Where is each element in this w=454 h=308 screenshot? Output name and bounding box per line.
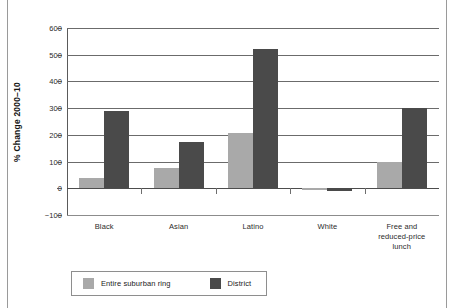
y-tick-mark--100 xyxy=(57,215,62,216)
y-tick-mark-100 xyxy=(57,162,62,163)
category-separator-tick xyxy=(216,188,217,194)
legend-label: District xyxy=(228,279,252,288)
gridline-600 xyxy=(67,28,439,29)
x-tick-label-asian: Asian xyxy=(141,222,215,232)
x-tick-label-white: White xyxy=(290,222,364,232)
bar xyxy=(154,168,179,188)
x-axis-tick-labels: BlackAsianLatinoWhiteFree andreduced-pri… xyxy=(67,222,439,270)
legend-entry: District xyxy=(210,278,252,289)
bar xyxy=(104,111,129,189)
legend-swatch-icon xyxy=(83,278,94,289)
y-axis-title: % Change 2000–10 xyxy=(10,28,24,215)
y-tick-mark-400 xyxy=(57,81,62,82)
y-axis-tick-labels: 6005004003002001000−100 xyxy=(28,28,62,215)
category-separator-tick xyxy=(290,188,291,194)
bar xyxy=(228,133,253,188)
bar xyxy=(79,178,104,188)
bar xyxy=(179,142,204,189)
y-axis-title-label: % Change 2000–10 xyxy=(12,82,22,162)
y-tick-mark-600 xyxy=(57,28,62,29)
x-tick-label-latino: Latino xyxy=(216,222,290,232)
bar xyxy=(302,188,327,190)
legend-entry: Entire suburban ring xyxy=(83,278,171,289)
category-separator-tick xyxy=(141,188,142,194)
bar xyxy=(402,108,427,188)
bar xyxy=(327,188,352,191)
y-tick-mark-200 xyxy=(57,135,62,136)
y-tick-mark-500 xyxy=(57,55,62,56)
x-tick-label-black: Black xyxy=(67,222,141,232)
bar xyxy=(253,49,278,188)
page-rule-left xyxy=(7,0,8,308)
plot-area xyxy=(67,28,439,215)
legend-label: Entire suburban ring xyxy=(101,279,171,288)
gridline--100 xyxy=(67,215,439,216)
gridline-0 xyxy=(67,188,439,189)
bar-chart-figure: % Change 2000–10 6005004003002001000−100… xyxy=(0,0,454,308)
page-rule-right xyxy=(446,0,447,308)
bar xyxy=(377,162,402,189)
category-separator-tick xyxy=(365,188,366,194)
chart-legend: Entire suburban ringDistrict xyxy=(71,271,267,296)
y-tick-mark-0 xyxy=(57,188,62,189)
x-tick-label-free-and-reduced-price-lunch: Free andreduced-pricelunch xyxy=(365,222,439,252)
legend-swatch-icon xyxy=(210,278,221,289)
y-tick-mark-300 xyxy=(57,108,62,109)
